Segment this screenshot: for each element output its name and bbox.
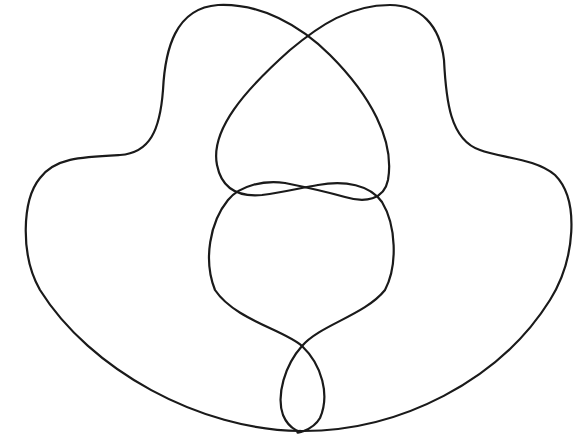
outer-right-strand <box>216 5 571 431</box>
outer-left-strand <box>26 5 389 431</box>
middle-band-right <box>281 183 394 432</box>
middle-band-left <box>209 182 324 432</box>
knot-diagram <box>0 0 580 438</box>
